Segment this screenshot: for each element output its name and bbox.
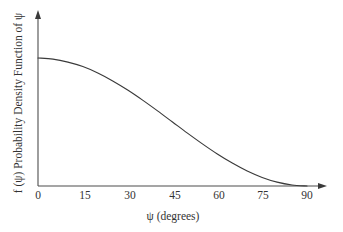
x-tick-label-45: 45 bbox=[169, 189, 181, 201]
x-axis-arrow-icon bbox=[318, 183, 327, 189]
chart-figure: 0 15 30 45 60 75 90 ψ (degrees) f (ψ) Pr… bbox=[0, 0, 343, 232]
x-axis-title: ψ (degrees) bbox=[147, 210, 200, 223]
x-tick-label-60: 60 bbox=[213, 189, 225, 201]
x-tick-label-0: 0 bbox=[35, 189, 41, 201]
x-tick-label-15: 15 bbox=[79, 189, 91, 201]
y-axis-arrow-icon bbox=[35, 10, 41, 19]
x-tick-label-90: 90 bbox=[301, 189, 313, 201]
x-tick-label-75: 75 bbox=[257, 189, 269, 201]
y-axis-title: f (ψ) Probability Density Function of ψ bbox=[12, 12, 25, 193]
chart-plot-area: 0 15 30 45 60 75 90 ψ (degrees) f (ψ) Pr… bbox=[0, 0, 343, 232]
x-tick-label-30: 30 bbox=[124, 189, 136, 201]
pdf-curve bbox=[38, 58, 307, 186]
